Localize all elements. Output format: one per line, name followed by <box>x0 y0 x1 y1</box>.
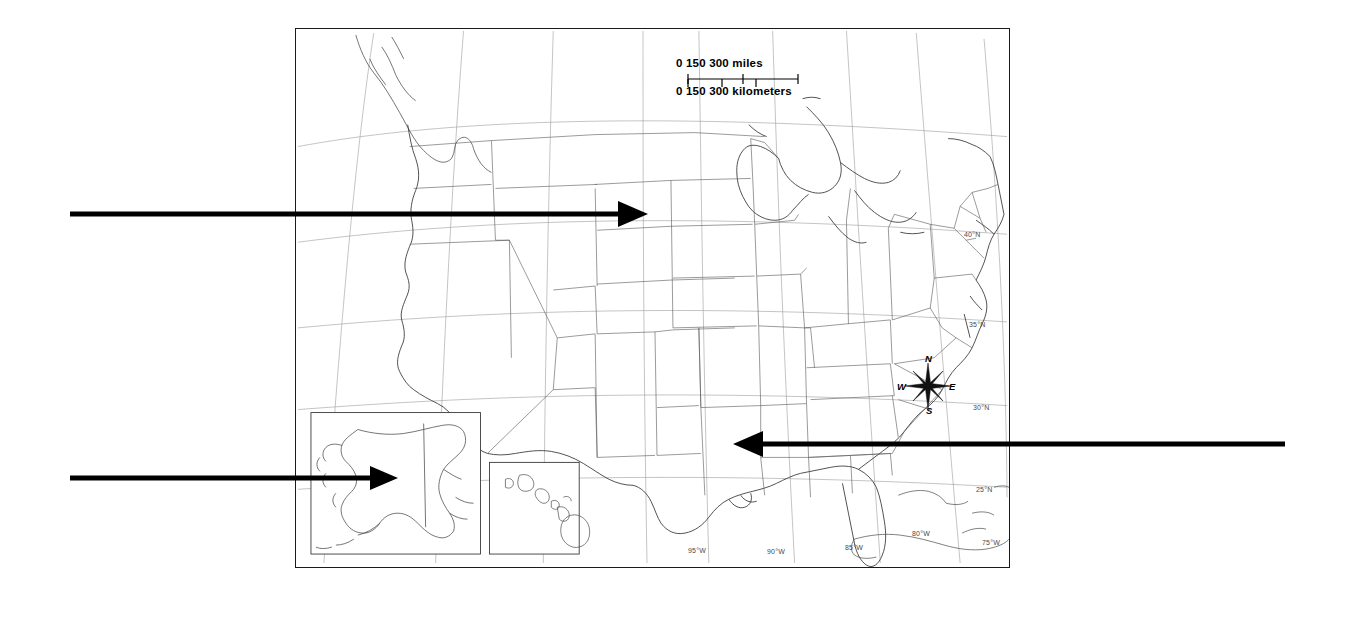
graticule-label-lon-75: 75°W <box>982 539 1000 546</box>
map-canvas <box>296 29 1009 567</box>
alaska-inset-frame <box>311 413 481 554</box>
map-page: 40°N 35°N 30°N 25°N 95°W 90°W 85°W 80°W … <box>0 0 1346 617</box>
map-frame: 40°N 35°N 30°N 25°N 95°W 90°W 85°W 80°W … <box>295 28 1010 568</box>
graticule-label-lat-30: 30°N <box>973 404 989 411</box>
scale-bar: 0 150 300 miles 0 150 300 kilometers <box>676 57 828 107</box>
state-boundaries <box>410 133 998 498</box>
compass-south-label: S <box>926 405 932 416</box>
compass-west-label: W <box>897 381 906 392</box>
compass-rose: N E S W <box>896 355 960 417</box>
scale-bar-kilometers-label: 0 150 300 kilometers <box>676 85 828 97</box>
caribbean-outlines <box>851 486 1009 559</box>
graticule-label-lon-95: 95°W <box>688 547 706 554</box>
alaska-inset-group <box>311 413 481 554</box>
hawaii-inset-group <box>489 462 589 554</box>
graticule-label-lon-90: 90°W <box>767 548 785 555</box>
graticule-label-lat-35: 35°N <box>969 321 985 328</box>
compass-north-label: N <box>925 353 932 364</box>
graticule-label-lon-85: 85°W <box>845 544 863 551</box>
graticule-label-lat-25: 25°N <box>976 486 992 493</box>
scale-bar-miles-label: 0 150 300 miles <box>676 57 828 69</box>
canada-outline <box>356 35 492 172</box>
graticule-label-lat-40: 40°N <box>964 231 980 238</box>
compass-east-label: E <box>949 381 955 392</box>
graticule-label-lon-80: 80°W <box>912 530 930 537</box>
